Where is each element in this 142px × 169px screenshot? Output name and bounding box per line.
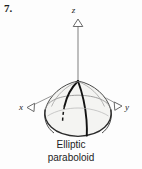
- caption-line-1: Elliptic: [0, 139, 142, 152]
- paraboloid-surface: [44, 81, 112, 136]
- y-axis-arrowhead: [114, 102, 122, 110]
- z-axis-arrowhead: [73, 19, 83, 27]
- y-axis-label: y: [124, 102, 129, 112]
- x-axis-arrowhead: [27, 103, 35, 111]
- figure-caption: Elliptic paraboloid: [0, 139, 142, 164]
- caption-line-2: paraboloid: [0, 152, 142, 165]
- x-axis-label: x: [18, 102, 23, 112]
- paraboloid-fill: [44, 81, 112, 136]
- figure-panel: 7.: [0, 0, 142, 169]
- z-axis-label: z: [71, 5, 76, 15]
